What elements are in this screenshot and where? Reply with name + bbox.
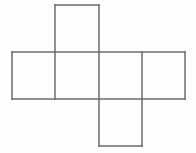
right-face: [99, 52, 142, 99]
bottom-face: [99, 99, 142, 146]
cube-net-diagram: [0, 0, 196, 153]
back-face: [142, 52, 185, 99]
front-face: [55, 52, 99, 99]
left-face: [12, 52, 55, 99]
cube-net-figure: [0, 0, 196, 153]
top-face: [55, 5, 99, 52]
